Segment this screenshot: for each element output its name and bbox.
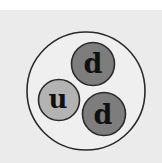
quark-label: u — [49, 84, 68, 114]
quark-label: d — [94, 99, 113, 130]
quark-d-top: d — [72, 43, 115, 86]
diagram-svg: d u d — [0, 0, 162, 163]
neutron-diagram: d u d — [0, 0, 162, 163]
quark-u: u — [39, 80, 80, 121]
quark-d-bottom: d — [83, 93, 126, 136]
quark-label: d — [84, 48, 103, 79]
